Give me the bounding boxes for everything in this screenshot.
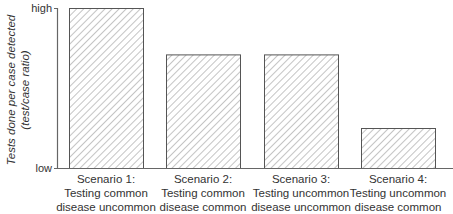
x-category-label: disease common bbox=[355, 201, 442, 213]
x-category-label: disease common bbox=[160, 201, 247, 213]
x-category-label: Testing common bbox=[64, 187, 148, 199]
y-tick-label-low: low bbox=[35, 162, 52, 174]
y-axis-sublabel: (test/case ratio) bbox=[19, 50, 31, 129]
x-category-label: Scenario 4: bbox=[369, 173, 427, 185]
bar-scenario-1 bbox=[70, 9, 144, 169]
x-category-label: Testing common bbox=[161, 187, 245, 199]
x-category-label: Scenario 1: bbox=[77, 173, 135, 185]
bar-chart: high low Tests done per case detected (t… bbox=[0, 0, 453, 214]
y-axis-label: Tests done per case detected bbox=[5, 14, 17, 165]
x-category-label: disease uncommon bbox=[56, 201, 156, 213]
x-category-label: Scenario 2: bbox=[174, 173, 232, 185]
bar-scenario-4 bbox=[362, 129, 436, 169]
x-category-label: Testing uncommon bbox=[253, 187, 350, 199]
bar-scenario-2 bbox=[167, 55, 241, 169]
y-tick-label-high: high bbox=[31, 2, 52, 14]
x-category-label: disease uncommon bbox=[251, 201, 351, 213]
x-category-label: Testing uncommon bbox=[350, 187, 447, 199]
bar-scenario-3 bbox=[265, 55, 339, 169]
bars-group bbox=[70, 9, 436, 169]
x-category-label: Scenario 3: bbox=[272, 173, 330, 185]
category-labels: Scenario 1:Testing commondisease uncommo… bbox=[56, 173, 446, 213]
